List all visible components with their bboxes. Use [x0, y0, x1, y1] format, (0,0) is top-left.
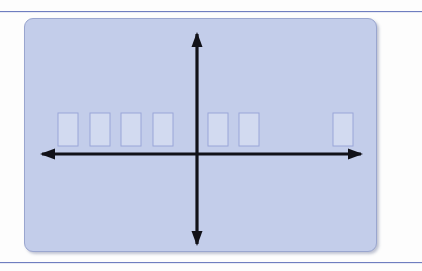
top-divider-rule-shadow	[0, 12, 422, 13]
bottom-divider-rule-shadow	[0, 263, 422, 264]
bar-2[interactable]	[90, 113, 110, 146]
bar-5[interactable]	[208, 113, 228, 146]
y-axis-arrow-down-icon	[192, 231, 203, 246]
bar-1[interactable]	[58, 113, 78, 146]
x-axis	[40, 149, 363, 160]
bar-4[interactable]	[153, 113, 173, 146]
bar-3[interactable]	[121, 113, 141, 146]
coordinate-diagram	[25, 19, 376, 251]
y-axis-arrow-up-icon	[192, 32, 203, 47]
bar-6[interactable]	[239, 113, 259, 146]
x-axis-arrow-right-icon	[348, 149, 363, 160]
slide-canvas	[0, 0, 422, 271]
coordinate-plane-panel[interactable]	[24, 18, 377, 252]
bar-7[interactable]	[333, 113, 353, 146]
x-axis-arrow-left-icon	[40, 149, 55, 160]
bar-group	[58, 113, 353, 146]
y-axis	[192, 32, 203, 246]
